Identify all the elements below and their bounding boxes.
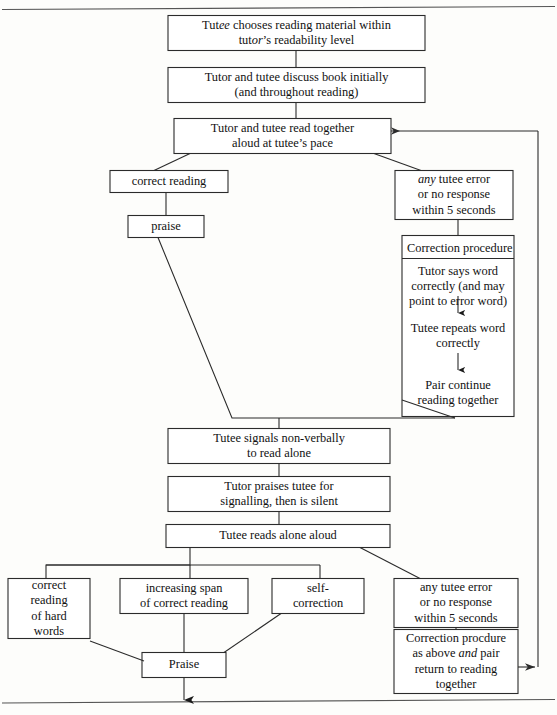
label-choose-material: Tutee chooses reading material within tu… <box>168 15 425 51</box>
label-correction-bottom: Correction procdure as above and pair re… <box>394 629 518 694</box>
label-signals-line2: to read alone <box>247 446 311 461</box>
label-read-together-line2: aloud at tutee’s pace <box>232 136 333 151</box>
label-praise-bottom-line1: Praise <box>169 657 199 672</box>
label-correction-step-1: Tutor says word correctly (and may point… <box>402 264 514 309</box>
label-correction-bottom-line4: together <box>436 677 477 692</box>
edge-self-correction-to-praise-bottom <box>224 614 281 653</box>
label-reads-alone: Tutee reads alone aloud <box>166 524 390 548</box>
label-correction-bottom-line3: return to reading <box>415 662 498 677</box>
label-discuss-book-line2: (and throughout reading) <box>235 85 359 100</box>
label-self-correction: self- correction <box>272 578 364 614</box>
label-praises-signal-line2: signalling, then is silent <box>220 494 338 509</box>
label-increasing-span-line1: increasing span <box>146 581 223 596</box>
label-correction-step-2-line2: correctly <box>402 336 514 351</box>
label-correct-reading: correct reading <box>110 170 228 193</box>
label-error-top: any tutee error or no response within 5 … <box>395 170 513 220</box>
label-error-bottom: any tutee error or no response within 5 … <box>394 578 518 628</box>
label-choose-material-line1: Tutee chooses reading material within <box>202 18 391 33</box>
label-praise-top: praise <box>128 215 204 238</box>
label-correction-step-3-line2: reading together <box>402 393 514 408</box>
label-increasing-span: increasing span of correct reading <box>120 578 248 614</box>
label-error-top-line3: within 5 seconds <box>412 203 495 218</box>
label-increasing-span-line2: of correct reading <box>140 596 228 611</box>
label-discuss-book: Tutor and tutee discuss book initially (… <box>168 67 425 103</box>
label-reads-alone-line1: Tutee reads alone aloud <box>219 528 337 543</box>
label-praise-bottom: Praise <box>142 652 226 678</box>
label-hard-words: correct reading of hard words <box>8 578 90 639</box>
label-choose-material-line2: tutor’s readability level <box>239 33 355 48</box>
page-rule-top <box>2 7 555 10</box>
label-hard-words-line1: correct <box>32 578 66 593</box>
label-error-bottom-line3: within 5 seconds <box>414 611 497 626</box>
label-correction-step-3-line1: Pair continue <box>402 378 514 393</box>
label-correction-bottom-line1: Correction procdure <box>406 631 506 646</box>
flowchart-canvas: Tutee chooses reading material within tu… <box>0 0 557 715</box>
label-correct-reading-line1: correct reading <box>132 174 207 189</box>
label-correction-step-2: Tutee repeats word correctly <box>402 321 514 351</box>
edge-reads-alone-to-error-bottom <box>360 548 420 579</box>
edge-read-together-to-correct-reading <box>154 154 190 171</box>
label-correction-step-3: Pair continue reading together <box>402 378 514 408</box>
label-correction-bottom-line2: as above and pair <box>412 646 499 661</box>
label-error-bottom-line1: any tutee error <box>420 580 492 595</box>
label-praise-top-line1: praise <box>151 219 181 234</box>
label-error-bottom-line2: or no response <box>420 595 492 610</box>
label-hard-words-line4: words <box>34 624 64 639</box>
label-correction-procedure-header: Correction procedure <box>402 241 514 256</box>
label-praises-signal-line1: Tutor praises tutee for <box>224 479 333 494</box>
label-signals-line1: Tutee signals non-verbally <box>213 431 345 446</box>
label-error-top-line1: any tutee error <box>418 172 490 187</box>
label-correction-step-1-line1: Tutor says word <box>402 264 514 279</box>
page-rule-bottom <box>2 700 555 704</box>
label-self-correction-line2: correction <box>293 596 343 611</box>
label-correction-step-1-line2: correctly (and may <box>402 279 514 294</box>
label-error-top-line2: or no response <box>418 187 490 202</box>
label-hard-words-line3: of hard <box>31 609 66 624</box>
label-praises-signal: Tutor praises tutee for signalling, then… <box>168 476 390 512</box>
edge-reads-alone-to-lower-bus <box>46 548 190 579</box>
label-correction-step-2-line1: Tutee repeats word <box>402 321 514 336</box>
label-correction-step-1-line3: point to error word) <box>402 294 514 309</box>
label-read-together-line1: Tutor and tutee read together <box>211 121 354 136</box>
label-self-correction-line1: self- <box>307 581 329 596</box>
label-read-together: Tutor and tutee read together aloud at t… <box>174 118 391 154</box>
label-discuss-book-line1: Tutor and tutee discuss book initially <box>205 70 389 85</box>
label-hard-words-line2: reading <box>30 593 67 608</box>
edge-hard-words-to-praise-bottom <box>90 641 144 661</box>
edge-read-together-to-error-top <box>374 154 421 171</box>
label-signals-nonverbally: Tutee signals non-verbally to read alone <box>168 428 390 464</box>
